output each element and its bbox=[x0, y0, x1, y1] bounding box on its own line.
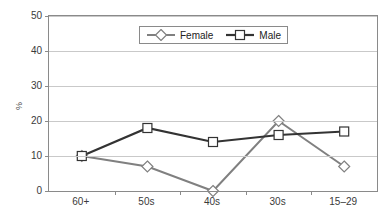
legend-entry-male: Male bbox=[225, 29, 281, 41]
y-tickmark-40 bbox=[45, 51, 49, 52]
y-axis-tick-labels: 01020304050 bbox=[0, 0, 48, 221]
x-axis-tick-labels: 60+50s40s30s15–29 bbox=[48, 196, 376, 216]
x-tickmark bbox=[180, 191, 181, 195]
y-tickmark-20 bbox=[45, 121, 49, 122]
y-tick-label: 20 bbox=[2, 115, 48, 126]
gridline-10 bbox=[49, 156, 377, 157]
data-point-marker bbox=[209, 138, 218, 147]
y-tickmark-50 bbox=[45, 16, 49, 17]
data-point-marker bbox=[340, 127, 349, 136]
legend-label: Male bbox=[259, 30, 281, 41]
gridline-20 bbox=[49, 121, 377, 122]
legend: FemaleMale bbox=[139, 26, 288, 44]
line-chart: % 01020304050 60+50s40s30s15–29 FemaleMa… bbox=[0, 0, 388, 221]
y-tick-label: 0 bbox=[2, 185, 48, 196]
gridline-30 bbox=[49, 86, 377, 87]
y-tick-label: 40 bbox=[2, 45, 48, 56]
line-square-marker-icon bbox=[225, 29, 255, 41]
x-tickmark bbox=[246, 191, 247, 195]
y-tickmark-0 bbox=[45, 191, 49, 192]
legend-label: Female bbox=[180, 30, 213, 41]
x-tick-label: 60+ bbox=[48, 196, 114, 216]
y-tick-label: 10 bbox=[2, 150, 48, 161]
x-tick-label: 15–29 bbox=[310, 196, 376, 216]
x-tick-label: 30s bbox=[245, 196, 311, 216]
gridline-0 bbox=[49, 191, 377, 192]
x-tick-label: 40s bbox=[179, 196, 245, 216]
gridline-40 bbox=[49, 51, 377, 52]
data-point-marker bbox=[143, 124, 152, 133]
gridline-50 bbox=[49, 16, 377, 17]
y-tick-label: 50 bbox=[2, 10, 48, 21]
line-diamond-marker-icon bbox=[146, 29, 176, 41]
y-tickmark-10 bbox=[45, 156, 49, 157]
data-point-marker bbox=[274, 131, 283, 140]
y-tickmark-30 bbox=[45, 86, 49, 87]
y-tick-label: 30 bbox=[2, 80, 48, 91]
legend-entry-female: Female bbox=[146, 29, 213, 41]
x-tickmark bbox=[311, 191, 312, 195]
x-tick-label: 50s bbox=[114, 196, 180, 216]
x-tickmark bbox=[115, 191, 116, 195]
data-point-marker bbox=[142, 161, 153, 172]
